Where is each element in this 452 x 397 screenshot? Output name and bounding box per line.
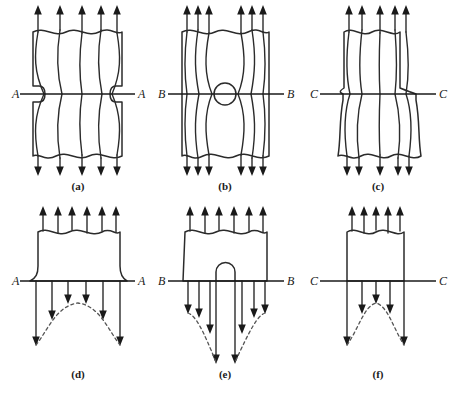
- top-arrow: [360, 206, 368, 233]
- panel-e-outline: [183, 230, 267, 281]
- section-label-b-right-e: B: [287, 274, 295, 288]
- bottom-arrow: [248, 158, 256, 176]
- top-arrow: [376, 5, 384, 33]
- panel-d: A A (d): [11, 206, 146, 381]
- stress-arrow: [261, 281, 269, 314]
- bottom-arrow: [97, 158, 105, 176]
- stress-distribution-curve: [347, 303, 404, 345]
- section-label-b-left-e: B: [158, 274, 166, 288]
- top-arrow: [112, 206, 120, 232]
- bottom-arrow: [34, 156, 42, 176]
- stress-arrow: [195, 281, 203, 318]
- stress-arrow: [48, 281, 56, 320]
- stress-arrow: [184, 281, 192, 314]
- top-arrow: [78, 5, 86, 33]
- panel-c: C C (c): [310, 5, 448, 193]
- bottom-arrow: [194, 158, 202, 176]
- top-arrow: [358, 5, 366, 30]
- bottom-arrow: [205, 155, 213, 176]
- panel-f: C C (f): [310, 206, 448, 381]
- panel-caption-d: (d): [71, 368, 85, 381]
- panel-caption-a: (a): [72, 180, 85, 193]
- top-arrow: [396, 206, 404, 231]
- section-label-c-left-f: C: [310, 274, 319, 288]
- panel-f-outline: [347, 230, 404, 281]
- top-arrow: [68, 206, 76, 230]
- top-arrow: [215, 206, 223, 230]
- stress-arrow: [386, 281, 394, 314]
- stress-distribution-curve-right: [235, 313, 265, 362]
- stress-distribution-curve: [36, 303, 120, 345]
- section-label-c-right: C: [439, 87, 448, 101]
- top-arrow: [194, 5, 202, 30]
- top-arrow: [345, 5, 353, 32]
- panel-caption-e: (e): [219, 368, 232, 381]
- panel-e: B B (e): [158, 206, 295, 381]
- top-arrow: [54, 206, 62, 233]
- panel-b: B B (b): [158, 5, 295, 193]
- hole-outline: [216, 263, 235, 282]
- panel-caption-b: (b): [218, 180, 232, 193]
- section-label-a-left: A: [11, 87, 20, 101]
- stress-arrow: [99, 281, 107, 320]
- top-arrow: [248, 5, 256, 30]
- top-arrow: [348, 206, 356, 231]
- stress-arrow: [358, 281, 366, 314]
- panel-a: A A (a): [11, 5, 146, 193]
- stress-arrow: [116, 281, 124, 346]
- top-arrow: [259, 5, 267, 32]
- top-arrow: [402, 5, 410, 32]
- section-label-b-left: B: [158, 87, 166, 101]
- section-label-a-right: A: [137, 87, 146, 101]
- section-label-c-right-f: C: [439, 274, 448, 288]
- top-arrow: [391, 5, 399, 30]
- stress-distribution-curve-left: [188, 313, 216, 362]
- top-arrow: [83, 206, 91, 233]
- top-arrow: [372, 206, 380, 230]
- section-label-c-left: C: [310, 87, 319, 101]
- top-arrow: [237, 5, 245, 33]
- bottom-arrow: [259, 156, 267, 176]
- panel-caption-c: (c): [372, 180, 385, 193]
- stress-arrow: [372, 281, 380, 304]
- top-arrow: [39, 206, 47, 231]
- top-arrow: [56, 5, 64, 30]
- bottom-arrow: [183, 156, 191, 176]
- top-arrow: [245, 206, 253, 231]
- bottom-arrow: [355, 158, 363, 176]
- stress-arrow: [238, 281, 246, 334]
- top-arrow: [201, 206, 209, 233]
- top-arrow: [34, 5, 42, 32]
- top-arrow: [230, 206, 238, 233]
- stress-arrow: [343, 281, 351, 346]
- top-arrow: [205, 5, 213, 33]
- top-arrow: [113, 5, 121, 33]
- bottom-arrow: [405, 156, 413, 176]
- bottom-arrow: [394, 158, 402, 176]
- bottom-arrow: [343, 156, 351, 176]
- section-label-a-right-d: A: [137, 274, 146, 288]
- top-arrow: [97, 5, 105, 30]
- section-label-b-right: B: [287, 87, 295, 101]
- stress-arrow: [231, 281, 239, 364]
- stress-arrow: [400, 281, 408, 346]
- stress-arrow: [212, 281, 220, 364]
- stress-arrow: [206, 281, 214, 334]
- panel-d-outline: [30, 230, 127, 281]
- stress-arrow: [64, 281, 72, 304]
- top-arrow: [186, 206, 194, 231]
- bottom-arrow: [56, 158, 64, 176]
- panel-caption-f: (f): [373, 368, 384, 381]
- top-arrow: [98, 206, 106, 231]
- stress-arrow: [82, 281, 90, 304]
- bottom-arrow: [237, 155, 245, 176]
- top-arrow: [259, 206, 267, 232]
- stress-arrow: [250, 281, 258, 318]
- stress-arrow: [32, 281, 40, 346]
- section-label-a-left-d: A: [11, 274, 20, 288]
- top-arrow: [183, 5, 191, 32]
- top-arrow: [384, 206, 392, 233]
- stress-flow-figure: A A (a) B B (b): [0, 0, 452, 397]
